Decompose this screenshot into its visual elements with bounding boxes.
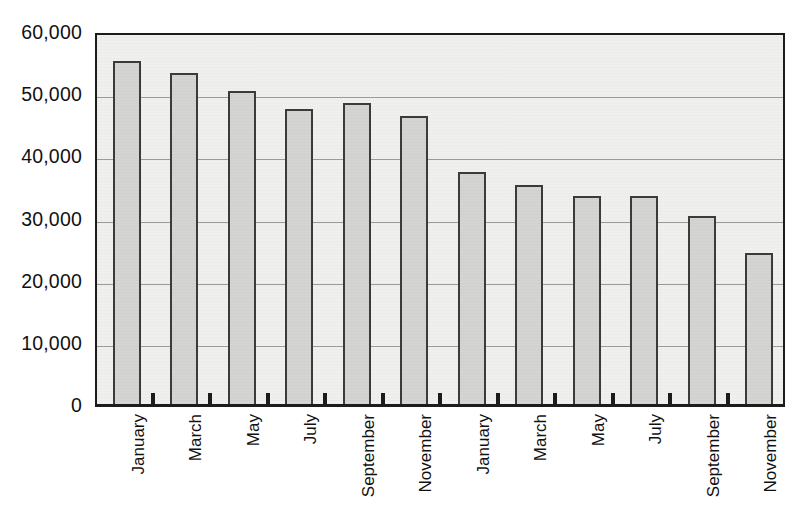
y-tick-label: 60,000 [21, 23, 82, 43]
x-tick [266, 393, 270, 405]
y-tick-label: 50,000 [21, 85, 82, 105]
y-tick-label: 20,000 [21, 272, 82, 292]
bar-fill-texture [345, 105, 369, 404]
x-axis-label: July [647, 414, 664, 444]
bar-fill-texture [287, 111, 311, 404]
y-tick-label: 30,000 [21, 210, 82, 230]
x-axis-label: November [417, 414, 434, 492]
x-tick [611, 393, 615, 405]
x-axis-label: January [475, 414, 492, 474]
x-tick [726, 393, 730, 405]
bar [228, 91, 256, 404]
plot-texture [97, 35, 783, 404]
x-tick [496, 393, 500, 405]
x-axis-label: September [705, 414, 722, 497]
x-axis-label: September [360, 414, 377, 497]
y-tick-label: 40,000 [21, 148, 82, 168]
bar [343, 103, 371, 404]
bar-fill-texture [115, 63, 139, 404]
bar-fill-texture [460, 174, 484, 404]
bar-fill-texture [632, 198, 656, 404]
bar [573, 196, 601, 404]
y-tick-label: 10,000 [21, 334, 82, 354]
bar-fill-texture [747, 255, 771, 404]
x-tick [323, 393, 327, 405]
bar [745, 253, 773, 404]
bar-fill-texture [575, 198, 599, 404]
x-axis-label: May [245, 414, 262, 446]
x-axis-label: March [187, 414, 204, 461]
bar [285, 109, 313, 404]
gridline [97, 97, 783, 98]
x-axis-label: July [302, 414, 319, 444]
plot-area [95, 33, 785, 406]
bar [458, 172, 486, 404]
x-axis-label: January [130, 414, 147, 474]
x-tick [553, 393, 557, 405]
bar [688, 216, 716, 404]
x-axis-label: March [532, 414, 549, 461]
bar-chart: 010,00020,00030,00040,00050,00060,000 Ja… [0, 0, 807, 531]
bar-fill-texture [517, 187, 541, 404]
x-tick [668, 393, 672, 405]
bar [400, 116, 428, 404]
x-tick [381, 393, 385, 405]
bar-fill-texture [690, 218, 714, 404]
x-axis-label: May [590, 414, 607, 446]
bar [630, 196, 658, 404]
bar-fill-texture [230, 93, 254, 404]
gridline [97, 346, 783, 347]
x-tick [438, 393, 442, 405]
gridline [97, 284, 783, 285]
bar [515, 185, 543, 404]
x-axis-labels: JanuaryMarchMayJulySeptemberNovemberJanu… [0, 410, 807, 531]
bar [170, 73, 198, 404]
bar-fill-texture [172, 75, 196, 404]
x-tick [208, 393, 212, 405]
x-axis-label: November [762, 414, 779, 492]
bar-fill-texture [402, 118, 426, 404]
x-tick [151, 393, 155, 405]
gridline [97, 222, 783, 223]
gridline [97, 159, 783, 160]
bar [113, 61, 141, 404]
